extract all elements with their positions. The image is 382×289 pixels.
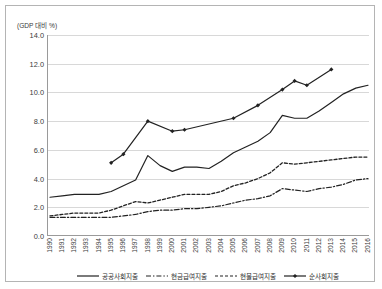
legend-swatch-icon [146,272,168,280]
legend-label: 순사회지출 [309,271,339,281]
series-marker [231,116,235,120]
x-axis-tick: 1990 [46,238,53,253]
x-axis-tick: 2008 [266,238,273,253]
x-axis-tick: 1992 [70,238,77,253]
x-axis-tick: 2004 [217,238,224,253]
x-axis-tick: 2014 [339,238,346,253]
x-axis-tick: 2002 [192,238,199,253]
x-axis-tick: 1997 [131,238,138,253]
x-axis-tick: 2009 [278,238,285,253]
legend-item[interactable]: 순사회지출 [284,271,339,281]
x-axis-tick: 1998 [144,238,151,253]
legend-label: 현물급여지출 [240,271,276,281]
y-axis-tick: 12.0 [10,59,44,68]
x-axis-tick: 1991 [58,238,65,253]
x-axis-tick: 2012 [315,238,322,253]
legend-item[interactable]: 현물급여지출 [215,271,276,281]
legend-swatch-icon [215,272,237,280]
x-axis-tick-labels: 1990199119921993199419951996199719981999… [47,238,369,268]
x-axis-tick: 2011 [303,238,310,252]
y-axis-tick: 14.0 [10,31,44,40]
x-axis-tick: 2007 [254,238,261,253]
chart-legend: 공공사회지출현금급여지출현물급여지출순사회지출 [47,268,369,284]
legend-item[interactable]: 공공사회지출 [77,271,138,281]
plot-area [47,35,369,236]
x-axis-tick: 1994 [95,238,102,253]
legend-label: 공공사회지출 [102,271,138,281]
x-axis-tick: 2015 [351,238,358,253]
x-axis-tick: 2003 [205,238,212,253]
y-axis-tick: 8.0 [10,117,44,126]
chart-frame: (GDP 대비 %) 0.02.04.06.08.010.012.014.0 1… [5,5,375,282]
legend-label: 현금급여지출 [171,271,207,281]
series-marker [182,128,186,132]
series-line [111,69,331,162]
y-axis-tick: 4.0 [10,174,44,183]
y-axis-tick: 0.0 [10,232,44,241]
series-line [50,179,368,218]
x-axis-tick: 2000 [168,238,175,253]
x-axis-tick: 2010 [290,238,297,253]
x-axis-tick: 2016 [364,238,371,253]
x-axis-tick: 2013 [327,238,334,253]
y-axis-tick-labels: 0.02.04.06.08.010.012.014.0 [6,35,44,236]
y-axis-tick: 2.0 [10,203,44,212]
y-axis-tick: 10.0 [10,88,44,97]
x-axis-tick: 2005 [229,238,236,253]
series-lines [48,35,370,236]
series-line [50,85,368,197]
legend-swatch-icon [77,272,99,280]
series-marker [170,129,174,133]
x-axis-tick: 2006 [241,238,248,253]
legend-item[interactable]: 현금급여지출 [146,271,207,281]
x-axis-tick: 1996 [119,238,126,253]
x-axis-tick: 1993 [82,238,89,253]
y-axis-tick: 6.0 [10,145,44,154]
x-axis-tick: 2001 [180,238,187,253]
axis-unit-label: (GDP 대비 %) [17,20,57,30]
x-axis-tick: 1995 [107,238,114,253]
legend-swatch-icon [284,272,306,280]
x-axis-tick: 1999 [156,238,163,253]
